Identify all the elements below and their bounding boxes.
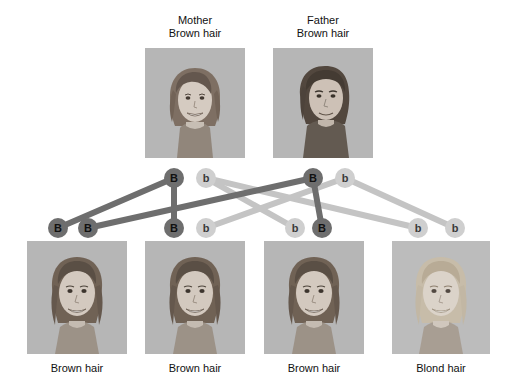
child-1-allele-1: B — [48, 218, 68, 238]
child-3-allele-1: b — [285, 218, 305, 238]
father-allele-1: B — [303, 168, 323, 188]
child-brown-hair-portrait-icon — [27, 241, 127, 354]
edge-father-b-to-child4-b — [345, 178, 455, 228]
child-1-allele-2: B — [78, 218, 98, 238]
child-3-photo — [264, 241, 364, 354]
child-3-label: Brown hair — [244, 362, 384, 375]
mother-allele-1: B — [164, 168, 184, 188]
mother-portrait-icon — [145, 48, 245, 158]
child-2-photo — [145, 241, 245, 354]
father-portrait-icon — [273, 48, 373, 158]
mother-label: Mother Brown hair — [125, 14, 265, 40]
mother-photo — [145, 48, 245, 158]
dominant-edge-group — [58, 178, 322, 228]
child-4-allele-2: b — [445, 218, 465, 238]
child-4-label: Blond hair — [371, 362, 511, 375]
mother-allele-2: b — [196, 168, 216, 188]
father-allele-2: b — [335, 168, 355, 188]
child-4-photo — [392, 241, 490, 354]
edge-mother-b-to-child2-b — [206, 178, 295, 228]
child-2-allele-2: b — [196, 218, 216, 238]
child-brown-hair-portrait-icon — [264, 241, 364, 354]
child-4-allele-1: b — [408, 218, 428, 238]
child-2-allele-1: B — [164, 218, 184, 238]
father-photo — [273, 48, 373, 158]
child-blond-hair-portrait-icon — [392, 241, 490, 354]
child-3-allele-2: B — [312, 218, 332, 238]
child-brown-hair-portrait-icon — [145, 241, 245, 354]
inheritance-diagram: Mother Brown hair Father Brown hair — [0, 0, 516, 388]
child-1-photo — [27, 241, 127, 354]
edge-mother-B-to-child1-B — [58, 178, 174, 228]
father-label: Father Brown hair — [253, 14, 393, 40]
